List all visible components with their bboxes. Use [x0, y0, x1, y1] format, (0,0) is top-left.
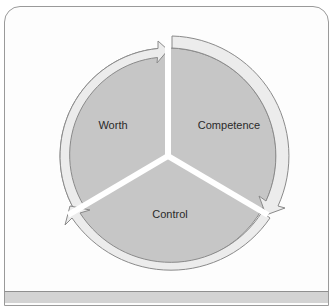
segment-label-control: Control — [152, 208, 187, 220]
segment-label-competence: Competence — [198, 119, 260, 131]
segment-label-worth: Worth — [98, 119, 127, 131]
